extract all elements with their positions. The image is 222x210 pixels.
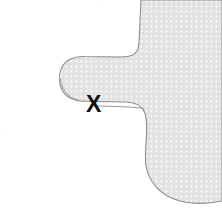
shaded-region-group <box>59 0 222 203</box>
point-marker-x: X <box>86 93 101 116</box>
faint-left-artifact: · <box>2 128 4 134</box>
shaded-region-fill <box>59 0 222 203</box>
figure-canvas: X · · <box>0 0 222 210</box>
faint-top-artifact: · <box>100 0 102 6</box>
notch-hairline <box>97 106 141 108</box>
shape-diagram <box>0 0 222 210</box>
